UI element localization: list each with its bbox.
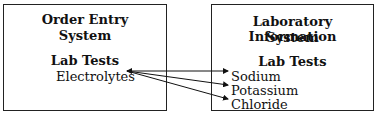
arrow-to-chloride [127, 71, 228, 99]
mapping-arrows [0, 0, 376, 115]
arrow-to-potassium [127, 71, 228, 85]
